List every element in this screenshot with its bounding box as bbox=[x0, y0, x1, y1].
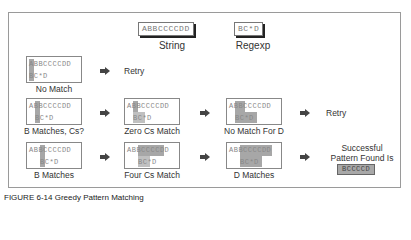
result-pattern: BCCCCD bbox=[337, 164, 375, 175]
step-string: ABBCCCCDD bbox=[29, 102, 71, 110]
step-b-matches-cs: ABBCCCCDD BC*D bbox=[26, 98, 82, 125]
step-regexp: BC*D bbox=[133, 114, 152, 122]
success-line-2: Pattern Found Is bbox=[322, 153, 402, 163]
success-line-1: Successful bbox=[322, 143, 402, 153]
step-regexp: BC*D bbox=[40, 158, 59, 166]
step-string: ABBCCCCDD bbox=[229, 146, 271, 154]
figure-caption: FIGURE 6-14 Greedy Pattern Matching bbox=[4, 193, 144, 202]
step-string: ABBCCCCDD bbox=[127, 102, 169, 110]
legend-regexp-label: Regexp bbox=[230, 40, 276, 51]
step-d-matches: ABBCCCCDD BC*D bbox=[226, 142, 282, 169]
legend-string-box: ABBCCCCDD bbox=[138, 22, 194, 36]
step-regexp: BC*D bbox=[240, 158, 259, 166]
step-four-cs-match: ABBCCCCDD BC*D bbox=[124, 142, 180, 169]
step-string: ABBCCCCDD bbox=[229, 102, 271, 110]
step-no-match: ABBCCCCDD BC*D bbox=[26, 56, 82, 83]
legend-string-value: ABBCCCCDD bbox=[142, 24, 190, 33]
caption-b-matches-cs: B Matches, Cs? bbox=[20, 126, 88, 136]
step-regexp: BC*D bbox=[35, 114, 54, 122]
legend-regexp-box: BC*D bbox=[234, 22, 263, 36]
step-string: ABBCCCCDD bbox=[127, 146, 169, 154]
step-zero-cs-match: ABBCCCCDD BC*D bbox=[124, 98, 180, 125]
legend-string-label: String bbox=[140, 40, 204, 51]
step-b-matches: ABBCCCCDD BC*D bbox=[26, 142, 82, 169]
caption-no-match: No Match bbox=[26, 84, 82, 94]
caption-d-matches: D Matches bbox=[218, 170, 290, 180]
legend-regexp-value: BC*D bbox=[238, 24, 259, 33]
caption-four-cs-match: Four Cs Match bbox=[116, 170, 188, 180]
step-regexp: BC*D bbox=[235, 114, 254, 122]
step-regexp: BC*D bbox=[138, 158, 157, 166]
step-string: ABBCCCCDD bbox=[29, 146, 71, 154]
outcome-retry-1: Retry bbox=[124, 66, 144, 76]
step-string: ABBCCCCDD bbox=[29, 60, 71, 68]
success-label: Successful Pattern Found Is bbox=[322, 143, 402, 163]
caption-zero-cs-match: Zero Cs Match bbox=[116, 126, 188, 136]
outcome-retry-2: Retry bbox=[326, 108, 346, 118]
step-no-match-for-d: ABBCCCCDD BC*D bbox=[226, 98, 282, 125]
caption-no-match-for-d: No Match For D bbox=[218, 126, 290, 136]
caption-b-matches: B Matches bbox=[26, 170, 82, 180]
step-regexp: BC*D bbox=[29, 72, 48, 80]
